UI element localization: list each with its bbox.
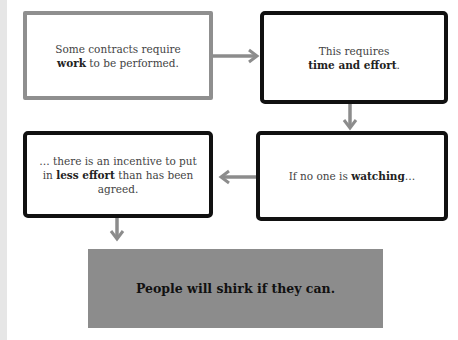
box-text-bold: less effort [56, 169, 115, 181]
box-text: Some contracts require work to be perfor… [55, 42, 181, 70]
box-text-bold: work [57, 57, 86, 69]
side-strip [0, 0, 7, 340]
arrow-down-icon [343, 104, 357, 131]
flow-box-time-effort: This requires time and effort. [260, 11, 448, 104]
box-text-post: to be performed. [86, 57, 179, 69]
conclusion-text: People will shirk if they can. [136, 281, 335, 296]
box-text-pre: Some contracts require [55, 43, 181, 55]
flow-box-contracts: Some contracts require work to be perfor… [23, 11, 213, 100]
arrow-left-icon [219, 170, 256, 184]
box-text: If no one is watching… [289, 169, 416, 183]
flow-box-less-effort: … there is an incentive to put in less e… [23, 131, 213, 218]
arrow-down-icon [110, 218, 124, 242]
box-text-pre: This requires [319, 45, 390, 57]
box-text-pre: If no one is [289, 170, 352, 182]
flow-box-watching: If no one is watching… [256, 131, 448, 221]
box-text-post: . [397, 59, 400, 71]
box-text-bold: watching [351, 170, 405, 182]
conclusion-banner: People will shirk if they can. [88, 249, 383, 328]
box-text-post: … [405, 170, 416, 182]
arrow-right-icon [213, 50, 260, 62]
box-text: This requires time and effort. [308, 44, 400, 72]
box-text: … there is an incentive to put in less e… [38, 154, 198, 196]
box-text-bold: time and effort [308, 59, 396, 71]
